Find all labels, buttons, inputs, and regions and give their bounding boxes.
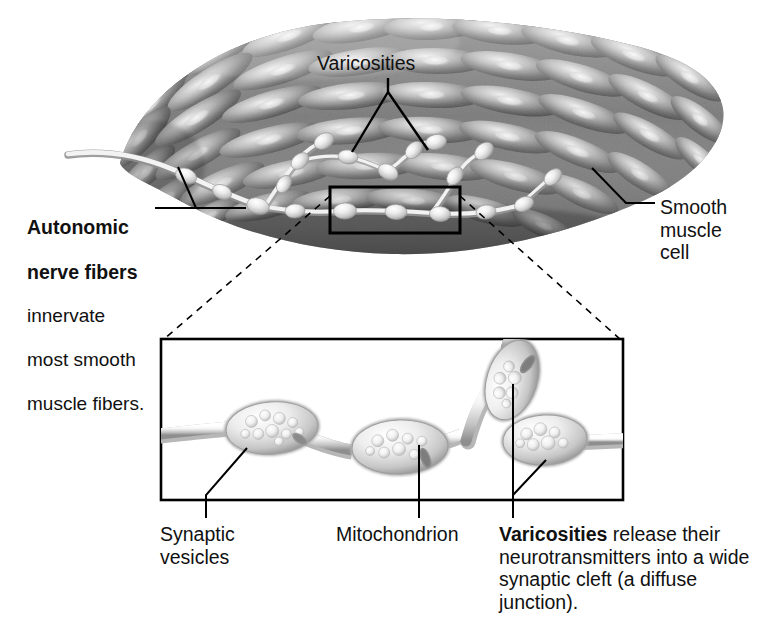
- label-autonomic-line5: muscle fibers.: [27, 393, 202, 415]
- label-synaptic-vesicles: Synaptic vesicles: [160, 523, 235, 568]
- label-varicosities-description: Varicosities release their neurotransmit…: [499, 523, 761, 613]
- label-varicosities-bold: Varicosities: [499, 523, 607, 545]
- label-autonomic-line2: nerve fibers: [27, 261, 202, 284]
- label-smooth-muscle-cell: Smooth muscle cell: [660, 196, 727, 264]
- label-autonomic-nerve-fibers: Autonomic nerve fibers innervate most sm…: [27, 194, 202, 438]
- varicosity-detail-inset: [150, 329, 640, 518]
- label-varicosities-top: Varicosities: [317, 52, 415, 75]
- label-autonomic-line1: Autonomic: [27, 216, 202, 239]
- label-mitochondrion: Mitochondrion: [336, 523, 458, 546]
- label-autonomic-line3: innervate: [27, 305, 202, 327]
- label-autonomic-line4: most smooth: [27, 349, 202, 371]
